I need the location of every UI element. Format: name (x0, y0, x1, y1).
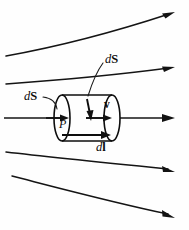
streamline-5-arrowhead (162, 210, 175, 218)
label-dl: dl (96, 141, 106, 154)
streamline-1 (6, 14, 169, 56)
figure-canvas (0, 0, 189, 230)
streamline-2 (6, 68, 169, 84)
label-point-p: P (59, 118, 66, 130)
leader-group (43, 63, 103, 109)
leader-dS-upper (88, 63, 103, 96)
v-vector-head (103, 115, 112, 122)
streamline-5 (12, 176, 168, 214)
label-dS-left: dS (24, 90, 37, 103)
dS-upper-vector-head (87, 110, 94, 121)
flow-tube-figure: dS dS v P dl (0, 0, 189, 230)
streamline-2-arrowhead (162, 67, 175, 73)
streamline-4 (6, 152, 168, 169)
streamline-center-arrowhead (162, 114, 175, 122)
streamline-4-arrowhead (162, 166, 175, 172)
label-dl-l: l (102, 140, 105, 154)
streamline-1-arrowhead (162, 12, 175, 19)
label-dS-upper-S: S (111, 52, 118, 66)
label-velocity-vector: v (104, 99, 110, 111)
label-dS-upper: dS (105, 53, 118, 66)
label-dS-left-S: S (30, 89, 37, 103)
